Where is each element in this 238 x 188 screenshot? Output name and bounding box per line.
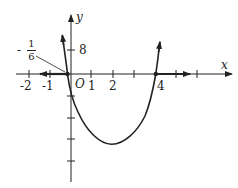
fraction-denominator: 6 [28, 51, 34, 62]
fraction-sign: - [17, 44, 21, 56]
y-axis-label: y [76, 11, 83, 23]
y-tick-label-8: 8 [79, 44, 87, 56]
fraction-neg-one-sixth: 1 6 [27, 39, 36, 62]
x-tick-label-4: 4 [157, 80, 165, 92]
fraction-numerator: 1 [28, 38, 34, 49]
x-tick-label-1: 1 [88, 80, 96, 92]
root-point-neg-sixth [65, 72, 69, 76]
root-leader-line [36, 56, 65, 72]
origin-label: O [75, 78, 85, 90]
x-tick-label-neg1: -1 [42, 80, 54, 92]
right-branch-arrow [159, 42, 160, 52]
root-point-4 [154, 72, 158, 76]
x-axis-label: x [221, 59, 228, 71]
left-branch-arrow [62, 35, 63, 45]
x-tick-label-2: 2 [109, 80, 117, 92]
parabola-plot [0, 0, 238, 188]
x-tick-label-neg2: -2 [20, 80, 32, 92]
